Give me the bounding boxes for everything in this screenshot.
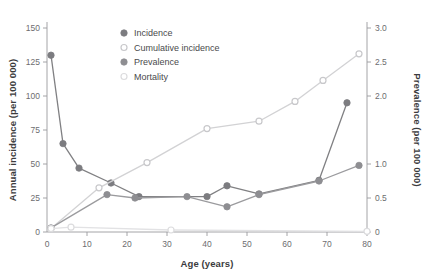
y-tick-label-left: 125 [26, 57, 40, 67]
data-point [356, 51, 362, 57]
legend-label: Cumulative incidence [134, 43, 220, 53]
y-tick-label-left: 100 [26, 91, 40, 101]
data-point [224, 204, 230, 210]
y-tick-label-left: 150 [26, 23, 40, 33]
data-point [256, 191, 262, 197]
series-cumulative-incidence [48, 51, 362, 232]
x-tick-label: 30 [162, 239, 172, 249]
y-tick-label-right: 3.0 [375, 23, 387, 33]
series-line [51, 54, 359, 229]
y-axis-right-title: Prevalence (per 100 000) [412, 73, 423, 186]
data-point [224, 183, 230, 189]
legend-marker-icon [121, 74, 127, 80]
data-point [256, 118, 262, 124]
series-line [51, 227, 367, 231]
y-tick-label-left: 50 [31, 159, 41, 169]
data-point [344, 100, 350, 106]
y-tick-label-left: 0 [35, 227, 40, 237]
data-point [320, 77, 326, 83]
y-tick-label-right: 2.5 [375, 57, 387, 67]
data-point [204, 126, 210, 132]
x-tick-label: 60 [282, 239, 292, 249]
y-tick-label-right: 0 [375, 227, 380, 237]
series-layer [48, 51, 370, 235]
x-tick-label: 80 [362, 239, 372, 249]
series-line [51, 55, 347, 196]
x-axis-title: Age (years) [181, 258, 234, 269]
legend-marker-icon [121, 45, 127, 51]
y-tick-label-left: 75 [31, 125, 41, 135]
y-axis-left-title: Annual incidence (per 100 000) [7, 59, 18, 201]
x-tick-label: 10 [82, 239, 92, 249]
legend-marker-icon [121, 30, 127, 36]
legend-label: Prevalence [134, 57, 179, 67]
legend-layer: IncidenceCumulative incidencePrevalenceM… [121, 28, 220, 82]
data-point [356, 162, 362, 168]
data-point [144, 160, 150, 166]
chart-container: 025507510012515000.51.02.02.53.001020304… [0, 0, 429, 278]
x-tick-label: 0 [45, 239, 50, 249]
data-point [60, 140, 66, 146]
legend-label: Mortality [134, 72, 169, 82]
data-point [104, 191, 110, 197]
x-tick-label: 40 [202, 239, 212, 249]
y-tick-label-left: 25 [31, 193, 41, 203]
data-point [204, 193, 210, 199]
data-point [184, 193, 190, 199]
y-tick-label-right: 2.0 [375, 91, 387, 101]
data-point [364, 228, 370, 234]
data-point [48, 52, 54, 58]
data-point [316, 178, 322, 184]
data-point [76, 165, 82, 171]
data-point [132, 195, 138, 201]
y-tick-label-right: 1.0 [375, 159, 387, 169]
legend-label: Incidence [134, 28, 173, 38]
series-mortality [48, 224, 370, 234]
data-point [292, 98, 298, 104]
data-point [68, 224, 74, 230]
data-point [168, 227, 174, 233]
series-incidence [48, 52, 350, 200]
data-point [48, 226, 54, 232]
x-tick-label: 50 [242, 239, 252, 249]
line-chart: 025507510012515000.51.02.02.53.001020304… [0, 0, 429, 278]
legend-marker-icon [121, 59, 127, 65]
y-tick-label-right: 0.5 [375, 193, 387, 203]
x-tick-label: 20 [122, 239, 132, 249]
x-tick-label: 70 [322, 239, 332, 249]
axes-layer: 025507510012515000.51.02.02.53.001020304… [26, 22, 387, 249]
data-point [96, 185, 102, 191]
